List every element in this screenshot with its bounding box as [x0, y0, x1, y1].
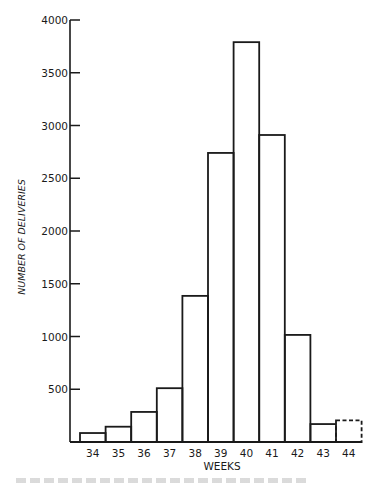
y-axis-label: NUMBER OF DELIVERIES	[16, 179, 27, 295]
bar	[310, 424, 336, 442]
x-tick-label: 35	[112, 447, 125, 459]
bar	[106, 427, 132, 442]
y-tick-label: 1500	[41, 278, 68, 290]
x-tick-label: 37	[163, 447, 176, 459]
y-axis: 5001000150020002500300035004000	[41, 14, 361, 442]
y-tick-label: 500	[48, 383, 68, 395]
x-tick-label: 43	[317, 447, 330, 459]
y-tick-label: 3500	[41, 67, 68, 79]
bar	[259, 135, 285, 442]
x-tick-label: 44	[342, 447, 356, 459]
bar	[80, 433, 106, 442]
bars	[80, 42, 362, 442]
bar	[285, 335, 311, 442]
x-tick-label: 38	[189, 447, 202, 459]
figure-caption-cropped	[16, 478, 306, 483]
x-tick-label: 39	[214, 447, 227, 459]
x-axis-label: WEEKS	[203, 460, 241, 472]
y-tick-label: 2500	[41, 172, 68, 184]
x-tick-label: 36	[137, 447, 151, 459]
bar	[182, 296, 208, 442]
y-tick-label: 4000	[41, 14, 68, 26]
x-tick-label: 40	[240, 447, 253, 459]
x-tick-label: 34	[86, 447, 100, 459]
histogram-chart: 5001000150020002500300035004000 34353637…	[0, 0, 380, 483]
bar	[234, 42, 260, 442]
bar	[208, 153, 234, 442]
x-tick-label: 42	[291, 447, 304, 459]
bar	[157, 388, 183, 442]
bar	[131, 412, 157, 442]
y-tick-label: 2000	[41, 225, 68, 237]
bar-dashed	[336, 420, 362, 442]
x-tick-labels: 3435363738394041424344	[86, 447, 356, 459]
y-tick-label: 3000	[41, 120, 68, 132]
y-tick-label: 1000	[41, 331, 68, 343]
x-tick-label: 41	[265, 447, 278, 459]
